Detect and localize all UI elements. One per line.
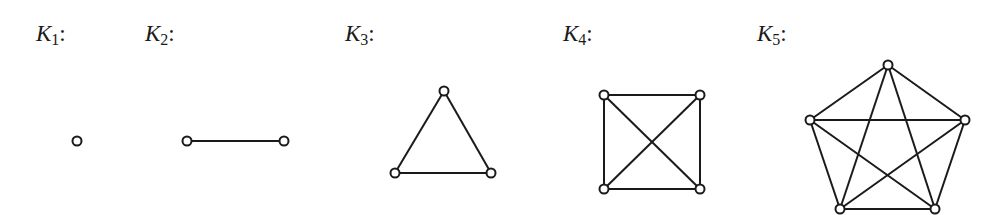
vertex [696,185,705,194]
graph-k3: K3: [344,21,496,178]
vertex [696,91,705,100]
graph-k4: K4: [562,21,705,194]
vertex [961,116,970,125]
graph-label-k3: K3: [344,21,375,48]
graph-label-k4: K4: [562,21,593,48]
graph-k2: K2: [144,21,289,146]
graph-k5: K5: [756,21,970,214]
edge [810,120,935,209]
vertex [183,137,192,146]
graph-label-k1: K1: [35,21,66,48]
edge [840,120,965,209]
vertex [931,205,940,214]
edge [395,91,444,173]
edge [935,120,965,209]
vertex [884,61,893,70]
vertex [391,169,400,178]
edge [444,91,491,173]
edge [888,65,965,120]
vertex [836,205,845,214]
graph-label-k5: K5: [756,21,787,48]
edge [810,120,840,209]
vertex [440,87,449,96]
vertex [600,91,609,100]
vertex [280,137,289,146]
vertex [600,185,609,194]
edge [840,65,888,209]
vertex [73,137,82,146]
edge [888,65,935,209]
vertex [806,116,815,125]
complete-graphs-diagram: K1: K2: K3: K4: K5: [0,0,993,215]
vertex [487,169,496,178]
edge [810,65,888,120]
graph-label-k2: K2: [144,21,175,48]
graph-k1: K1: [35,21,82,146]
